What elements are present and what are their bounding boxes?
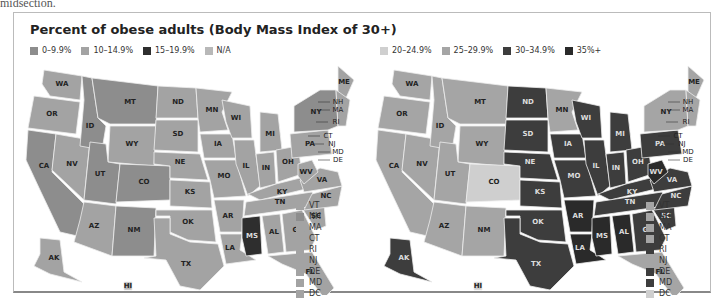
legend-swatch <box>646 224 654 232</box>
legend-swatch <box>646 257 654 265</box>
state-label: IN <box>262 164 271 172</box>
legend-swatch <box>205 47 213 55</box>
state-abbrev: MD <box>659 278 672 287</box>
state-label: OH <box>632 158 644 166</box>
state-label: NE <box>525 158 536 166</box>
state-label: IA <box>214 140 223 148</box>
legend-swatch <box>143 47 151 55</box>
legend-swatch <box>296 279 304 287</box>
legend-swatch <box>380 47 388 55</box>
northeast-legend-right: VTNHMACTRINJDEMDDC <box>646 200 672 299</box>
legend-swatch <box>296 290 304 298</box>
legend-label: 30–34.9% <box>515 46 555 55</box>
northeast-legend-left: VTNHMACTRINJDEMDDC <box>296 200 322 299</box>
state-label: NC <box>321 192 332 200</box>
northeast-item: CT <box>296 233 322 244</box>
callout-label: MA <box>683 106 694 114</box>
northeast-item: MD <box>296 277 322 288</box>
legend-item: 10–14.9% <box>81 46 133 55</box>
state-label: UT <box>95 170 106 178</box>
state-label: WV <box>649 168 663 176</box>
state-abbrev: NJ <box>309 256 317 265</box>
state-label: KS <box>185 188 195 196</box>
state-label: WV <box>299 168 313 176</box>
state-label: OK <box>182 218 194 226</box>
state-abbrev: VT <box>309 201 319 210</box>
state-label: AL <box>619 228 629 236</box>
state-label: WI <box>231 114 241 122</box>
state-abbrev: DC <box>659 289 671 298</box>
northeast-item: MA <box>296 222 322 233</box>
state-label: NC <box>671 192 682 200</box>
state-label: AL <box>269 228 279 236</box>
northeast-item: MA <box>646 222 672 233</box>
state-label: NY <box>661 108 673 116</box>
northeast-item: NJ <box>646 255 672 266</box>
state-abbrev: MA <box>309 223 321 232</box>
legend-right: 20–24.9%25–29.9%30–34.9%35%+ <box>380 46 601 55</box>
state-abbrev: RI <box>309 245 317 254</box>
callout-label: NH <box>333 98 344 106</box>
state-abbrev: RI <box>659 245 667 254</box>
callout-label: RI <box>683 118 690 126</box>
northeast-item: VT <box>296 200 322 211</box>
intro-fragment: midsection. <box>0 0 56 11</box>
state-label: MO <box>568 172 581 180</box>
state-abbrev: MD <box>309 278 322 287</box>
state-label: AK <box>399 254 410 262</box>
state-label: KY <box>627 188 638 196</box>
legend-swatch <box>565 47 573 55</box>
state-label: WY <box>476 140 490 148</box>
state-label: OH <box>282 158 294 166</box>
state-label: MT <box>124 98 136 106</box>
callout-label: CT <box>323 132 333 140</box>
state-label: ME <box>688 78 700 86</box>
state-abbrev: NH <box>309 212 321 221</box>
state-label: MO <box>218 172 231 180</box>
state-abbrev: CT <box>659 234 669 243</box>
state-label: OR <box>396 110 408 118</box>
state-label: OR <box>46 110 58 118</box>
legend-label: 0–9.9% <box>42 46 71 55</box>
state-label: NV <box>416 160 428 168</box>
northeast-item: DC <box>646 288 672 299</box>
state-label: AK <box>49 254 60 262</box>
state-abbrev: CT <box>309 234 319 243</box>
state-label: MT <box>474 98 486 106</box>
northeast-item: NJ <box>296 255 322 266</box>
callout-label: RI <box>333 118 340 126</box>
legend-item: 25–29.9% <box>442 46 494 55</box>
legend-label: 35%+ <box>577 46 601 55</box>
legend-item: 0–9.9% <box>30 46 71 55</box>
callout-label: MD <box>682 148 693 156</box>
callout-label: NJ <box>328 140 335 148</box>
callout-label: CT <box>673 132 683 140</box>
legend-swatch <box>646 290 654 298</box>
legend-label: 20–24.9% <box>392 46 432 55</box>
legend-swatch <box>646 202 654 210</box>
legend-item: 15–19.9% <box>143 46 195 55</box>
legend-swatch <box>646 213 654 221</box>
state-label: CA <box>389 162 400 170</box>
state-label: VA <box>667 176 678 184</box>
legend-swatch <box>646 235 654 243</box>
legend-swatch <box>296 268 304 276</box>
state-label: IA <box>564 140 573 148</box>
legend-swatch <box>296 235 304 243</box>
state-label: TN <box>625 198 636 206</box>
state-abbrev: NH <box>659 212 671 221</box>
state-label: IL <box>592 162 600 170</box>
state-label: MI <box>265 130 275 138</box>
state-label: NM <box>478 226 491 234</box>
callout-label: NJ <box>678 140 685 148</box>
legend-label: 10–14.9% <box>93 46 133 55</box>
state-label: ND <box>522 98 534 106</box>
state-label: CA <box>39 162 50 170</box>
state-label: NY <box>311 108 323 116</box>
northeast-item: DC <box>296 288 322 299</box>
state-label: ID <box>436 122 445 130</box>
legend-swatch <box>646 268 654 276</box>
state-abbrev: NJ <box>659 256 667 265</box>
state-label: NM <box>128 226 141 234</box>
state-label: NV <box>66 160 78 168</box>
